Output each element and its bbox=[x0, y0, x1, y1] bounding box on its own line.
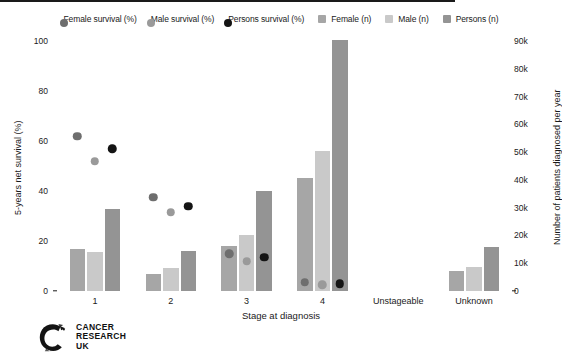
legend-dot-icon bbox=[147, 19, 155, 27]
legend-item[interactable]: Persons survival (%) bbox=[228, 14, 304, 24]
y-tick-label-right: 60k bbox=[514, 119, 554, 129]
y-tick-label-right: 50k bbox=[514, 147, 554, 157]
legend-square-icon bbox=[443, 15, 451, 23]
data-point-dot bbox=[225, 249, 234, 258]
y-tick-label-left: 20 bbox=[14, 236, 48, 246]
bar bbox=[146, 274, 162, 291]
bar bbox=[297, 178, 313, 291]
bar bbox=[87, 252, 103, 291]
x-axis-line bbox=[0, 0, 455, 2]
legend-item-label: Female (n) bbox=[331, 14, 371, 24]
cruk-logo-text: CANCER RESEARCH UK bbox=[76, 323, 126, 351]
bar bbox=[105, 209, 121, 291]
cruk-logo: CANCER RESEARCH UK bbox=[36, 320, 126, 354]
chart-container: Female survival (%)Male survival (%)Pers… bbox=[0, 0, 562, 362]
bar bbox=[181, 251, 197, 291]
x-tick-label: 1 bbox=[92, 296, 97, 306]
legend-square-icon bbox=[318, 15, 326, 23]
chart-legend: Female survival (%)Male survival (%)Pers… bbox=[0, 14, 562, 24]
x-tick-label: 2 bbox=[168, 296, 173, 306]
cruk-c-logo-icon bbox=[36, 320, 70, 354]
y-tick-label-right: 30k bbox=[514, 203, 554, 213]
legend-item-label: Persons survival (%) bbox=[228, 14, 304, 24]
bar bbox=[466, 267, 482, 291]
legend-item[interactable]: Female survival (%) bbox=[64, 14, 137, 24]
data-point-dot bbox=[301, 278, 310, 287]
y-tick-label-left: 0 bbox=[14, 286, 48, 296]
legend-item[interactable]: Male survival (%) bbox=[151, 14, 214, 24]
data-point-dot bbox=[149, 193, 158, 202]
y-tick-mark-right bbox=[512, 290, 516, 291]
y-axis-label-right: Number of patients diagnosed per year bbox=[552, 89, 562, 245]
logo-line-3: UK bbox=[76, 342, 126, 351]
bar bbox=[315, 151, 331, 291]
data-point-dot bbox=[184, 202, 193, 211]
y-tick-label-left: 80 bbox=[14, 86, 48, 96]
bar bbox=[484, 247, 500, 291]
bar bbox=[449, 271, 465, 291]
data-point-dot bbox=[242, 257, 251, 266]
y-tick-label-right: 20k bbox=[514, 230, 554, 240]
legend-square-icon bbox=[385, 15, 393, 23]
bar bbox=[70, 249, 86, 292]
x-tick-label: Unknown bbox=[455, 296, 493, 306]
data-point-dot bbox=[73, 132, 82, 141]
bar bbox=[332, 40, 348, 291]
data-point-dot bbox=[318, 281, 327, 290]
data-point-dot bbox=[108, 144, 117, 153]
y-tick-label-right: 0 bbox=[514, 286, 554, 296]
data-point-dot bbox=[260, 253, 269, 262]
bar bbox=[163, 268, 179, 291]
x-tick-label: 4 bbox=[320, 296, 325, 306]
legend-item-label: Persons (n) bbox=[456, 14, 499, 24]
legend-item-label: Male (n) bbox=[398, 14, 428, 24]
data-point-dot bbox=[336, 279, 345, 288]
y-tick-label-right: 70k bbox=[514, 92, 554, 102]
legend-item[interactable]: Persons (n) bbox=[443, 14, 499, 24]
bar bbox=[256, 191, 272, 291]
legend-item-label: Male survival (%) bbox=[151, 14, 214, 24]
y-axis-label-left: 5-years net survival (%) bbox=[13, 120, 23, 215]
legend-item-label: Female survival (%) bbox=[64, 14, 137, 24]
y-tick-label-right: 40k bbox=[514, 175, 554, 185]
y-tick-label-right: 80k bbox=[514, 64, 554, 74]
x-tick-label: Unstageable bbox=[373, 296, 424, 306]
y-tick-label-left: 100 bbox=[14, 36, 48, 46]
plot-area bbox=[57, 41, 512, 291]
legend-item[interactable]: Male (n) bbox=[385, 14, 428, 24]
legend-dot-icon bbox=[60, 19, 68, 27]
data-point-dot bbox=[167, 208, 176, 217]
data-point-dot bbox=[91, 157, 100, 166]
x-tick-label: 3 bbox=[244, 296, 249, 306]
legend-dot-icon bbox=[224, 19, 232, 27]
y-tick-label-right: 10k bbox=[514, 258, 554, 268]
legend-item[interactable]: Female (n) bbox=[318, 14, 371, 24]
y-tick-label-right: 90k bbox=[514, 36, 554, 46]
